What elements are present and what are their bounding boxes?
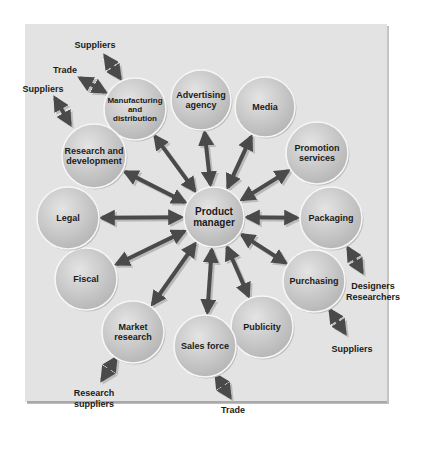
designers-researchers-packaging-text: Researchers: [346, 292, 400, 302]
node-media: Media: [235, 77, 297, 139]
arrow-product-manager-manufacturing-and-distribution: [155, 136, 194, 190]
label-designers-researchers-packaging: DesignersResearchers: [346, 281, 400, 302]
promotion-services-label: Promotion: [295, 143, 340, 153]
node-circles: ManufacturinganddistributionAdvertisinga…: [37, 70, 364, 379]
node-sales-force: Sales force: [174, 315, 238, 379]
manufacturing-and-distribution-label: Manufacturing: [107, 96, 162, 105]
arrow-product-manager-promotion-services-shadow: [244, 173, 290, 202]
arrow-product-manager-fiscal-shadow: [119, 233, 187, 266]
manufacturing-and-distribution-label: and: [128, 105, 142, 114]
suppliers-manufacturing-text: Suppliers: [74, 40, 115, 50]
packaging-label: Packaging: [308, 213, 353, 223]
node-packaging: Packaging: [300, 187, 364, 251]
node-market-research: Marketresearch: [102, 301, 166, 365]
trade-sales-text: Trade: [221, 405, 245, 415]
arrow-product-manager-publicity: [227, 247, 248, 296]
node-fiscal: Fiscal: [55, 248, 119, 312]
product-manager-label: Product: [195, 206, 233, 217]
node-promotion-services: Promotionservices: [286, 122, 350, 186]
advertising-agency-label: agency: [185, 100, 216, 110]
arrow-product-manager-research-and-development: [125, 172, 184, 202]
suppliers-purchasing-text: Suppliers: [331, 344, 372, 354]
trade-manufacturing-text: Trade: [53, 65, 77, 75]
sales-force-label: Sales force: [181, 341, 229, 351]
arrow-suppliers-manufacturing: [105, 56, 120, 78]
manufacturing-and-distribution-label: distribution: [113, 114, 157, 123]
advertising-agency-label: Advertising: [176, 90, 226, 100]
purchasing-label: Purchasing: [289, 276, 338, 286]
arrow-product-manager-legal: [102, 217, 181, 218]
arrow-product-manager-advertising-agency: [205, 133, 211, 184]
product-manager-relationship-diagram: ManufacturinganddistributionAdvertisinga…: [0, 0, 429, 454]
arrow-designers-researchers-packaging: [348, 248, 362, 272]
market-research-label: Market: [118, 322, 147, 332]
media-label: Media: [252, 102, 279, 112]
label-suppliers-manufacturing: Suppliers: [74, 40, 115, 50]
arrow-suppliers-research: [55, 98, 70, 124]
arrow-product-manager-media: [228, 137, 251, 187]
node-research-and-development: Research anddevelopment: [62, 124, 128, 190]
label-trade-sales: Trade: [221, 405, 245, 415]
designers-researchers-packaging-text: Designers: [351, 281, 395, 291]
research-suppliers-market-text: Research: [74, 388, 115, 398]
arrow-product-manager-promotion-services: [242, 171, 288, 200]
arrow-product-manager-purchasing: [242, 235, 286, 263]
label-suppliers-purchasing: Suppliers: [331, 344, 372, 354]
publicity-label: Publicity: [243, 322, 281, 332]
node-publicity: Publicity: [231, 296, 295, 360]
node-legal: Legal: [37, 187, 101, 251]
node-product-manager: Productmanager: [184, 187, 246, 249]
label-trade-manufacturing: Trade: [53, 65, 77, 75]
research-and-development-label: Research and: [64, 146, 123, 156]
suppliers-research-text: Suppliers: [22, 84, 63, 94]
arrow-trade-sales: [216, 375, 230, 397]
product-manager-label: manager: [193, 217, 235, 228]
arrow-suppliers-purchasing: [330, 310, 345, 333]
arrow-product-manager-media-shadow: [230, 139, 253, 189]
market-research-label: research: [114, 332, 152, 342]
arrow-product-manager-fiscal: [117, 231, 185, 264]
node-advertising-agency: Advertisingagency: [171, 70, 233, 132]
fiscal-label: Fiscal: [73, 274, 99, 284]
arrow-product-manager-market-research: [153, 244, 195, 304]
research-suppliers-market-text: suppliers: [74, 399, 114, 409]
legal-label: Legal: [56, 213, 80, 223]
label-research-suppliers-market: Researchsuppliers: [74, 388, 115, 409]
label-suppliers-research: Suppliers: [22, 84, 63, 94]
research-and-development-label: development: [66, 156, 122, 166]
arrow-trade-manufacturing: [80, 78, 105, 92]
node-purchasing: Purchasing: [283, 250, 347, 314]
arrow-product-manager-market-research-shadow: [155, 246, 197, 306]
promotion-services-label: services: [299, 153, 335, 163]
